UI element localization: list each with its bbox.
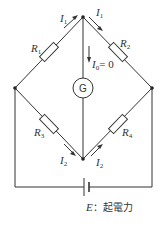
i2-left-label: I2 (59, 154, 68, 168)
i2-right-label: I2 (95, 156, 104, 170)
node-top (81, 15, 85, 19)
wire-left-to-battery (15, 88, 84, 187)
current-arrow-i2-right (91, 144, 103, 156)
resistor-r1 (40, 42, 59, 61)
r1-label: R1 (30, 42, 42, 56)
battery-label: E：起電力 (85, 201, 133, 213)
wire-right-to-battery (89, 88, 152, 187)
resistor-r3 (40, 114, 59, 133)
i1-right-label: I1 (95, 6, 104, 20)
node-bottom (81, 157, 85, 161)
r3-label: R3 (33, 126, 45, 140)
wheatstone-bridge-diagram: G R1 R2 R3 R4 I1 I1 I0= 0 I2 I2 E：起電力 (0, 0, 165, 226)
i1-left-label: I1 (59, 12, 68, 26)
current-arrow-i0 (87, 46, 91, 63)
node-right (150, 86, 154, 90)
i0-label: I0= 0 (91, 58, 114, 72)
galvanometer-label: G (79, 83, 87, 94)
r4-label: R4 (121, 126, 133, 140)
node-left (13, 86, 17, 90)
r2-label: R2 (119, 37, 131, 51)
